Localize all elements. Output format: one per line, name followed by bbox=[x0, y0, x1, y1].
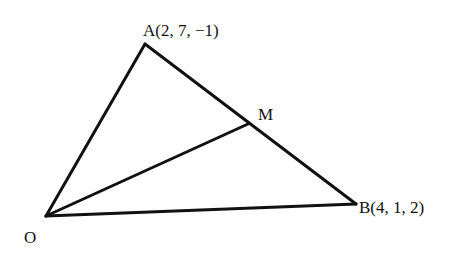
point-m-label: M bbox=[258, 106, 273, 123]
point-b-label: B(4, 1, 2) bbox=[359, 199, 424, 216]
segment-oa bbox=[46, 44, 145, 216]
segment-om-median bbox=[46, 124, 248, 216]
segment-ab bbox=[145, 44, 356, 204]
point-a-label: A(2, 7, −1) bbox=[143, 22, 219, 39]
point-o-label: O bbox=[24, 229, 36, 246]
segment-ob bbox=[46, 204, 356, 216]
